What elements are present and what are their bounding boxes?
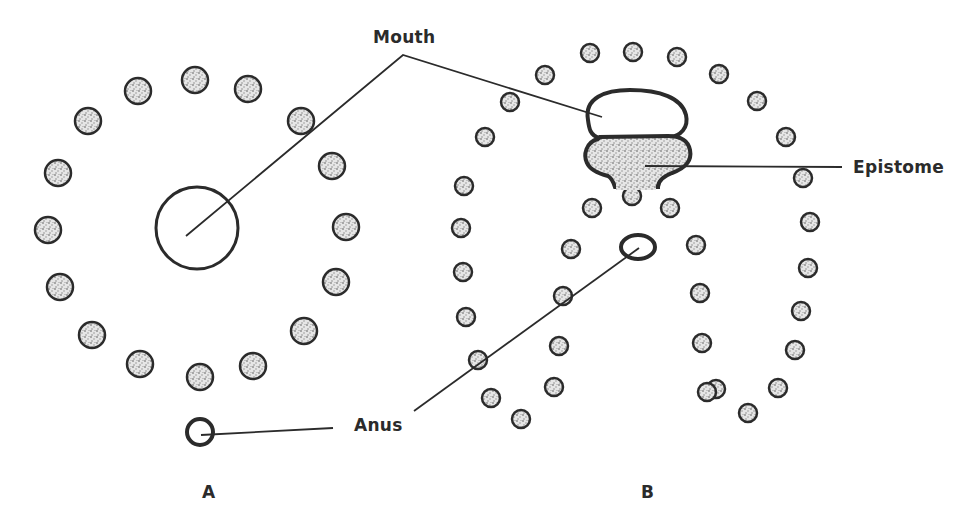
tentacle [323,269,349,295]
tentacle [691,284,709,302]
tentacle [125,78,151,104]
panel-a-lophophore [35,67,359,445]
tentacle [476,128,494,146]
tentacle [35,217,61,243]
tentacle [550,337,568,355]
tentacle [319,153,345,179]
tentacle [562,240,580,258]
panel-b-anus [621,235,655,259]
tentacle [801,213,819,231]
tentacle [512,410,530,428]
tentacle [75,108,101,134]
panel-b-lophophore [452,43,819,428]
tentacle [799,259,817,277]
tentacle [457,308,475,326]
tentacle [482,389,500,407]
tentacle [288,108,314,134]
diagram-svg [0,0,969,529]
tentacle [454,263,472,281]
panel-b-mouth [588,90,687,138]
panel-label-b: B [641,482,654,502]
tentacle [291,318,317,344]
anus-leader-line-a [201,428,333,435]
tentacle [687,236,705,254]
tentacle [739,404,757,422]
tentacle [545,378,563,396]
label-epistome: Epistome [853,157,944,177]
label-mouth: Mouth [373,27,435,47]
tentacle [455,177,473,195]
tentacle [47,274,73,300]
tentacle [235,76,261,102]
tentacle [187,364,213,390]
tentacle [45,160,71,186]
tentacle [583,199,601,217]
tentacle [624,43,642,61]
tentacle [668,48,686,66]
tentacle [661,199,679,217]
tentacle [786,341,804,359]
tentacle [79,322,105,348]
tentacle [792,302,810,320]
panel-label-a: A [202,482,215,502]
tentacle [182,67,208,93]
figure-canvas: Mouth Epistome Anus A B [0,0,969,529]
epistome-leader-line [645,166,842,167]
tentacle [501,93,519,111]
anus-leader-line-b [414,248,639,411]
panel-a-mouth [156,187,238,269]
tentacle [698,383,716,401]
panel-a-anus [187,419,213,445]
tentacle [777,128,795,146]
tentacle [748,92,766,110]
tentacle [581,44,599,62]
panel-a-tentacle-ring [35,67,359,390]
tentacle [240,353,266,379]
tentacle [693,334,711,352]
tentacle [127,351,153,377]
label-anus: Anus [354,415,403,435]
tentacle [794,169,812,187]
tentacle [769,379,787,397]
tentacle [452,219,470,237]
tentacle [333,214,359,240]
leader-lines [186,55,842,435]
tentacle [536,66,554,84]
tentacle [710,65,728,83]
